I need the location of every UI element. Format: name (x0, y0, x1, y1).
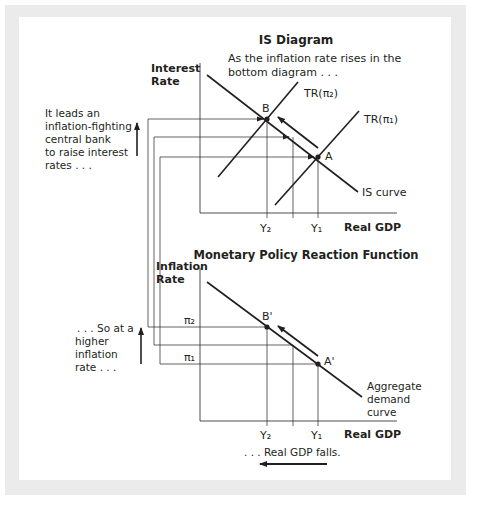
svg-text:inflation: inflation (75, 348, 118, 360)
bottom-vertical-guides (267, 327, 318, 426)
top-y-axis-label-1: Interest (151, 62, 200, 75)
top-vertical-guides (267, 119, 318, 218)
point-b-prime (264, 324, 269, 329)
top-x-tick-y1: Y₁ (310, 222, 322, 235)
tr-pi2-label: TR(π₂) (303, 87, 338, 100)
svg-text:It leads an: It leads an (45, 107, 100, 119)
is-mp-diagram: IS Diagram As the inflation rate rises i… (0, 0, 481, 508)
top-annotation-line1: As the inflation rate rises in the (228, 52, 402, 65)
svg-text:inflation-fighting: inflation-fighting (45, 120, 132, 132)
y-tick-pi1: π₁ (184, 351, 195, 364)
top-x-tick-y2: Y₂ (259, 222, 271, 235)
bottom-x-axis-label: Real GDP (344, 428, 401, 441)
point-a (315, 154, 320, 159)
point-b-prime-label: B' (262, 310, 273, 323)
point-a-prime-label: A' (324, 355, 335, 368)
real-gdp-falls-note: . . . Real GDP falls. (244, 446, 341, 458)
bottom-y-axis-label-2: Rate (156, 273, 185, 286)
bottom-x-tick-y2: Y₂ (259, 429, 271, 442)
point-a-label: A (325, 150, 333, 163)
top-y-axis-label-2: Rate (151, 75, 180, 88)
svg-text:rates . . .: rates . . . (45, 159, 92, 171)
point-b-label: B (262, 102, 270, 115)
top-annotation-line2: bottom diagram . . . (228, 66, 338, 79)
top-side-note: It leads an inflation-fighting central b… (45, 107, 132, 171)
aggregate-demand-curve (207, 282, 362, 397)
point-b (264, 116, 269, 121)
svg-text:curve: curve (367, 406, 396, 418)
ad-movement-arrow (278, 326, 318, 356)
y-tick-pi2: π₂ (184, 314, 195, 327)
mp-diagram-title: Monetary Policy Reaction Function (193, 248, 418, 262)
is-curve-label: IS curve (362, 186, 407, 199)
top-x-axis-label: Real GDP (344, 221, 401, 234)
is-diagram-title: IS Diagram (259, 33, 334, 47)
point-a-prime (315, 361, 320, 366)
svg-text:higher: higher (75, 335, 109, 347)
ad-curve-label: Aggregate demand curve (367, 380, 422, 418)
svg-text:rate . . .: rate . . . (75, 361, 116, 373)
svg-text:demand: demand (367, 393, 410, 405)
svg-text:. . . So at a: . . . So at a (77, 322, 134, 334)
tr-pi1-label: TR(π₁) (363, 113, 398, 126)
bottom-x-tick-y1: Y₁ (310, 429, 322, 442)
svg-text:central bank: central bank (45, 133, 112, 145)
tr-pi2-curve (218, 82, 298, 177)
svg-text:Aggregate: Aggregate (367, 380, 422, 392)
svg-text:to raise interest: to raise interest (45, 146, 128, 158)
bottom-side-note: . . . So at a higher inflation rate . . … (75, 322, 134, 373)
is-movement-arrow (278, 117, 318, 148)
